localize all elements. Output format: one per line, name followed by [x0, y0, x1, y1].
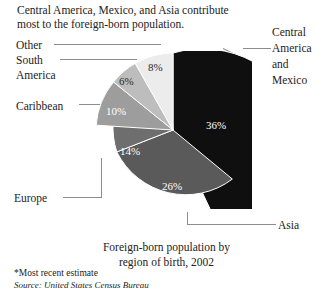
caption-line-1: Foreign-born population by [0, 240, 333, 255]
label-south-america: South America [16, 53, 56, 83]
figure-heading: Central America, Mexico, and Asia contri… [17, 3, 287, 31]
pie-chart: 36% 26% 14% 10% 6% 8% [94, 51, 252, 209]
label-central-america-line-2: America [272, 40, 312, 56]
leader-line-other [54, 44, 161, 45]
label-caribbean: Caribbean [16, 99, 63, 113]
pie-value-south-america: 6% [119, 75, 134, 87]
label-central-america-line-3: and [272, 56, 312, 72]
pie-value-europe: 14% [120, 145, 140, 157]
label-europe: Europe [14, 191, 47, 205]
figure-footnote: *Most recent estimate Source: United Sta… [14, 267, 149, 291]
label-central-america-line-4: Mexico [272, 72, 312, 88]
footnote-source: Source: United States Census Bureau [14, 279, 149, 291]
label-central-america-and-mexico: Central America and Mexico [272, 24, 312, 88]
pie-value-caribbean: 10% [106, 105, 126, 117]
heading-line-1: Central America, Mexico, and Asia contri… [17, 3, 287, 17]
footnote-estimate: *Most recent estimate [14, 267, 149, 279]
label-central-america-line-1: Central [272, 24, 312, 40]
pie-value-other: 8% [148, 61, 163, 73]
label-other: Other [16, 38, 42, 52]
leader-line-central-america-horizontal [243, 48, 271, 49]
figure-caption: Foreign-born population by region of bir… [0, 240, 333, 270]
pie-chart-figure: Central America, Mexico, and Asia contri… [0, 0, 333, 299]
heading-line-2: most to the foreign-born population. [17, 17, 287, 31]
leader-line-asia-horizontal [187, 224, 276, 225]
label-asia: Asia [278, 218, 299, 232]
pie-value-asia: 26% [162, 180, 182, 192]
label-south-america-line-2: America [16, 68, 56, 83]
label-south-america-line-1: South [16, 53, 56, 68]
pie-value-central-america-and-mexico: 36% [206, 119, 226, 131]
